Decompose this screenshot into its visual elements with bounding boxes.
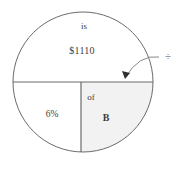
is-label: is bbox=[81, 22, 87, 31]
percent-label: 6% bbox=[46, 110, 59, 120]
circle-diagram-svg bbox=[0, 0, 180, 169]
base-label: B bbox=[103, 113, 110, 123]
figure-canvas: is $1110 6% of B ÷ bbox=[0, 0, 180, 169]
amount-label: $1110 bbox=[69, 46, 94, 56]
curved-arrow-path bbox=[125, 57, 159, 78]
division-sign-icon: ÷ bbox=[165, 51, 171, 62]
of-label: of bbox=[87, 93, 95, 102]
